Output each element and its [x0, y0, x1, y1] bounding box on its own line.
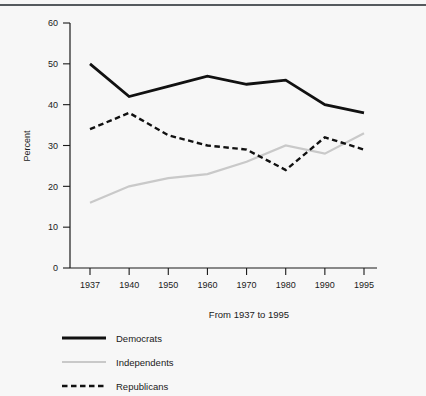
y-tick-label-30: 30	[48, 141, 58, 151]
legend-label-republicans: Republicans	[116, 381, 169, 392]
x-tick-label-1990: 1990	[315, 280, 335, 290]
y-tick-label-60: 60	[48, 18, 58, 28]
x-tick-label-1980: 1980	[276, 280, 296, 290]
series-line-independents	[90, 133, 364, 202]
x-tick-label-1995: 1995	[354, 280, 374, 290]
legend-label-democrats: Democrats	[116, 333, 162, 344]
series-lines	[90, 64, 364, 203]
series-line-democrats	[90, 64, 364, 113]
x-axis-ticks	[90, 268, 364, 275]
y-axis-title: Percent	[22, 130, 32, 162]
y-tick-label-20: 20	[48, 182, 58, 192]
series-line-republicans	[90, 113, 364, 170]
chart-page: 0102030405060 19371940195019601970198019…	[0, 0, 426, 396]
x-axis-tick-labels: 19371940195019601970198019901995	[80, 280, 374, 290]
y-tick-label-50: 50	[48, 59, 58, 69]
line-chart: 0102030405060 19371940195019601970198019…	[0, 0, 426, 396]
x-axis-title: From 1937 to 1995	[209, 309, 289, 320]
y-axis-tick-labels: 0102030405060	[48, 18, 58, 273]
y-tick-label-10: 10	[48, 222, 58, 232]
y-tick-label-0: 0	[53, 263, 58, 273]
y-tick-label-40: 40	[48, 100, 58, 110]
y-axis-ticks	[63, 23, 70, 268]
x-tick-label-1970: 1970	[237, 280, 257, 290]
x-tick-label-1940: 1940	[119, 280, 139, 290]
chart-svg: 0102030405060 19371940195019601970198019…	[0, 0, 426, 396]
x-tick-label-1960: 1960	[197, 280, 217, 290]
legend: DemocratsIndependentsRepublicans	[62, 333, 174, 392]
x-tick-label-1937: 1937	[80, 280, 100, 290]
legend-label-independents: Independents	[116, 357, 174, 368]
x-tick-label-1950: 1950	[158, 280, 178, 290]
